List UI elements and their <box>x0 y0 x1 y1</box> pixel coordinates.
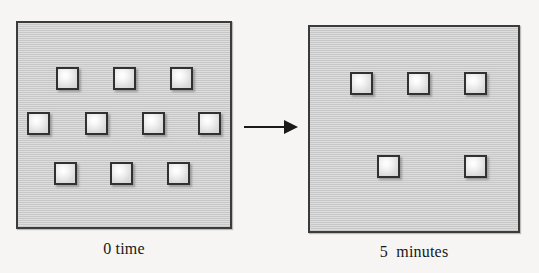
panel-right-container <box>308 25 520 233</box>
particle-square <box>110 162 133 185</box>
particle-square <box>113 67 136 90</box>
diffusion-figure: 0 time 5 minutes <box>0 0 539 273</box>
caption-left: 0 time <box>16 240 232 258</box>
particle-square <box>54 162 77 185</box>
particle-square <box>142 112 165 135</box>
particle-square <box>407 72 430 95</box>
particle-square <box>170 67 193 90</box>
panel-left-container <box>16 21 232 229</box>
particle-square <box>27 112 50 135</box>
particle-square <box>167 162 190 185</box>
particle-square <box>350 72 373 95</box>
particle-square <box>464 155 487 178</box>
particle-square <box>198 112 221 135</box>
caption-right: 5 minutes <box>308 243 520 261</box>
particle-square <box>464 72 487 95</box>
transition-arrow <box>244 118 298 136</box>
particle-square <box>377 155 400 178</box>
arrow-right-icon <box>244 118 298 136</box>
particle-square <box>85 112 108 135</box>
particle-square <box>56 67 79 90</box>
